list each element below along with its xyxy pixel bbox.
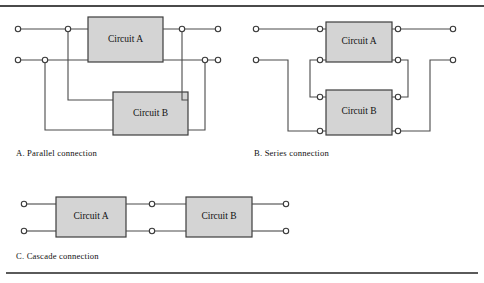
cascade-circuit-a-label: Circuit A — [73, 211, 108, 221]
panel-series: Circuit A Circuit B — [253, 22, 455, 135]
series-junction-a-out-bottom — [395, 57, 400, 62]
cascade-junction-mid-top — [149, 201, 154, 206]
parallel-circuit-b-label: Circuit B — [133, 108, 168, 118]
parallel-junction-out-top — [179, 26, 184, 31]
series-terminal-in-top — [253, 26, 258, 31]
parallel-terminal-in-bottom — [15, 57, 20, 62]
parallel-junction-in-top — [65, 26, 70, 31]
cascade-terminal-in-top — [21, 201, 26, 206]
circuit-figure: Circuit A Circuit B — [0, 0, 484, 283]
cascade-junction-mid-bottom — [149, 228, 154, 233]
panel-cascade: Circuit A Circuit B — [21, 197, 288, 237]
series-terminal-in-bottom — [253, 57, 258, 62]
parallel-junction-in-bottom — [42, 57, 47, 62]
wire-parallel-right-bottom-rise — [188, 60, 205, 130]
series-junction-a-out-top — [395, 26, 400, 31]
caption-series: B. Series connection — [254, 148, 329, 158]
series-junction-b-out-top — [395, 94, 400, 99]
cascade-terminal-in-bottom — [21, 228, 26, 233]
parallel-terminal-in-top — [15, 26, 20, 31]
series-terminal-out-bottom — [450, 57, 455, 62]
series-junction-a-in-bottom — [317, 57, 322, 62]
wire-series-in-bottom-bypass — [258, 60, 326, 131]
series-junction-b-in-bottom — [317, 128, 322, 133]
cascade-circuit-b-label: Circuit B — [201, 211, 236, 221]
panel-parallel: Circuit A Circuit B — [15, 17, 220, 135]
parallel-terminal-out-bottom — [215, 57, 220, 62]
wire-series-right-link — [392, 60, 408, 97]
series-junction-b-out-bottom — [395, 128, 400, 133]
wire-series-left-link — [310, 60, 326, 97]
series-junction-a-in-top — [317, 26, 322, 31]
wire-parallel-right-top-rise — [182, 29, 188, 100]
cascade-terminal-out-bottom — [283, 228, 288, 233]
series-terminal-out-top — [450, 26, 455, 31]
series-junction-b-in-top — [317, 94, 322, 99]
wire-parallel-left-bottom-drop — [45, 60, 113, 130]
parallel-junction-out-bottom — [202, 57, 207, 62]
cascade-terminal-out-top — [283, 201, 288, 206]
caption-parallel: A. Parallel connection — [16, 148, 97, 158]
series-circuit-a-label: Circuit A — [341, 36, 376, 46]
parallel-terminal-out-top — [215, 26, 220, 31]
series-circuit-b-label: Circuit B — [341, 106, 376, 116]
circuit-diagrams-canvas: Circuit A Circuit B — [0, 0, 484, 283]
parallel-circuit-a-label: Circuit A — [108, 34, 143, 44]
caption-cascade: C. Cascade connection — [16, 251, 99, 261]
